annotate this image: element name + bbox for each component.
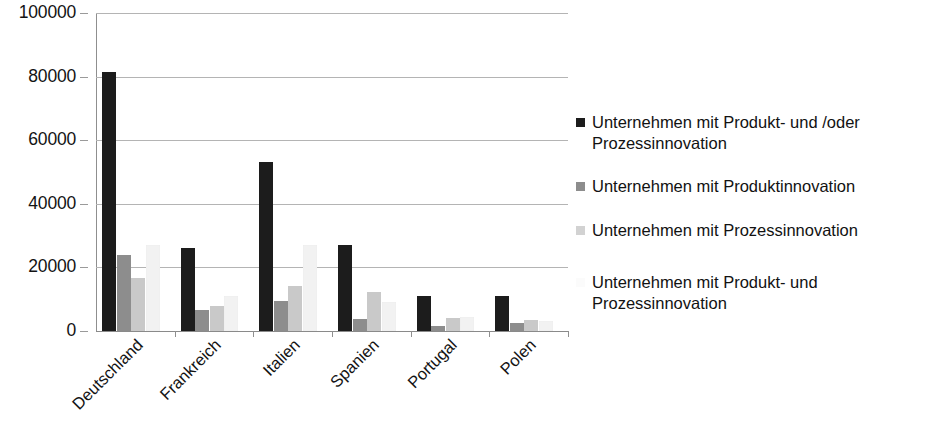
y-tick-mark [80,140,88,141]
chart-legend: Unternehmen mit Produkt- und /oder Proze… [576,104,926,314]
x-axis-label: Frankreich [157,336,224,403]
legend-entry: Unternehmen mit Produkt- und /oder Proze… [576,112,912,154]
legend-swatch-icon [576,118,585,127]
y-tick-label: 0 [66,322,76,340]
legend-label: Unternehmen mit Produkt- und Prozessinno… [592,272,912,314]
bar [146,245,160,331]
x-axis-label: Deutschland [69,336,146,413]
bar [367,292,381,331]
bar [353,319,367,331]
y-tick-label: 80000 [28,68,76,86]
bar [195,310,209,331]
bar-group [489,13,568,331]
bar-group [175,13,254,331]
bar [181,248,195,331]
bar [102,72,116,331]
legend-entry: Unternehmen mit Produkt- und Prozessinno… [576,272,912,314]
legend-entry: Unternehmen mit Prozessinnovation [576,220,858,241]
bars-layer [96,13,568,331]
legend-entry: Unternehmen mit Produktinnovation [576,176,855,197]
y-tick-mark [80,331,88,332]
bar [539,321,553,331]
bar [210,306,224,331]
y-axis: 020000400006000080000100000 [0,0,86,345]
legend-label: Unternehmen mit Prozessinnovation [592,220,858,241]
bar [460,317,474,331]
bar [259,162,273,331]
bar-chart-figure: 020000400006000080000100000 DeutschlandF… [0,0,929,421]
legend-swatch-icon [576,278,585,287]
plot-area [96,13,568,331]
bar [446,318,460,331]
legend-swatch-icon [576,182,585,191]
bar [117,255,131,331]
bar-group [96,13,175,331]
bar [224,296,238,331]
x-axis-label: Italien [260,336,303,379]
y-tick-label: 60000 [28,131,76,149]
x-axis-label: Polen [497,336,539,378]
y-tick-label: 100000 [19,4,76,22]
y-tick-label: 40000 [28,195,76,213]
x-axis-label: Spanien [327,336,381,390]
bar [495,296,509,331]
y-tick-mark [80,204,88,205]
bar [131,278,145,331]
bar [274,301,288,331]
x-axis-labels: DeutschlandFrankreichItalienSpanienPortu… [96,336,596,421]
y-tick-mark [80,267,88,268]
bar-group [411,13,490,331]
legend-label: Unternehmen mit Produktinnovation [592,176,855,197]
bar [510,323,524,331]
legend-label: Unternehmen mit Produkt- und /oder Proze… [592,112,912,154]
y-tick-label: 20000 [28,259,76,277]
legend-swatch-icon [576,226,585,235]
x-axis-label: Portugal [405,336,460,391]
bar-group [253,13,332,331]
y-tick-mark [80,13,88,14]
bar [303,245,317,331]
bar [417,296,431,331]
bar [288,286,302,331]
bar [382,302,396,331]
bar-group [332,13,411,331]
y-tick-mark [80,77,88,78]
bar [524,320,538,331]
bar [338,245,352,331]
